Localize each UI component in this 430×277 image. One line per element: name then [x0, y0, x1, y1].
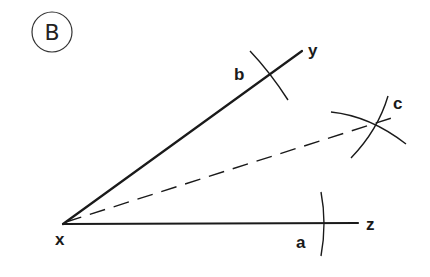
badge-label: B — [44, 20, 59, 45]
label-c: c — [393, 94, 402, 113]
label-b: b — [234, 65, 244, 84]
label-a: a — [296, 233, 306, 252]
ray-xz — [63, 223, 358, 224]
arc-c-from-b — [331, 112, 406, 144]
label-x: x — [55, 230, 65, 249]
figure-badge: B — [32, 12, 72, 52]
label-y: y — [308, 41, 318, 60]
arc-c-from-a — [351, 96, 388, 158]
ray-xy — [63, 51, 302, 224]
angle-bisector-diagram: B x y z a b c — [0, 0, 430, 277]
bisector-xc — [66, 116, 398, 222]
label-z: z — [366, 215, 375, 234]
